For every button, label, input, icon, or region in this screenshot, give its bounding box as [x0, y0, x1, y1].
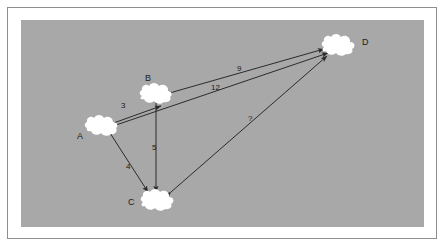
nodes-layer — [85, 34, 355, 211]
edge-weight-b-d: 9 — [237, 65, 241, 73]
edge-c-d[interactable] — [171, 56, 327, 192]
network-diagram-canvas: A B C D 3 4 5 9 12 ? — [21, 20, 424, 227]
node-label-d: D — [362, 38, 369, 47]
edge-weight-a-b: 3 — [121, 102, 125, 110]
edge-weight-c-d: ? — [248, 115, 252, 123]
node-label-c: C — [128, 198, 135, 207]
edge-weight-a-d: 12 — [211, 84, 220, 92]
node-d[interactable] — [322, 34, 355, 56]
edges-layer — [108, 49, 328, 192]
figure-root: A B C D 3 4 5 9 12 ? — [0, 0, 445, 246]
node-b[interactable] — [140, 83, 172, 104]
node-label-b: B — [145, 74, 151, 83]
node-label-a: A — [77, 132, 83, 141]
edge-a-b[interactable] — [108, 106, 161, 125]
edge-weight-b-c: 5 — [152, 144, 156, 152]
diagram-svg — [21, 20, 424, 227]
edge-b-d[interactable] — [173, 49, 324, 92]
node-a[interactable] — [85, 115, 118, 136]
node-c[interactable] — [141, 189, 174, 211]
edge-weight-a-c: 4 — [126, 163, 130, 171]
